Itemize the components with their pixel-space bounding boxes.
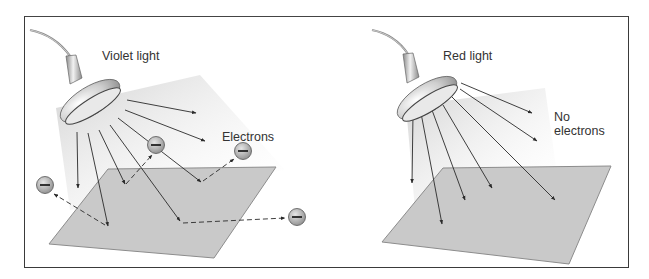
no-electrons-label: No electrons — [554, 110, 614, 138]
violet-panel — [30, 30, 306, 258]
electron — [235, 143, 252, 160]
electron — [289, 209, 306, 226]
electron — [37, 177, 54, 194]
red-panel — [372, 30, 611, 264]
red-light-label: Red light — [443, 49, 492, 63]
electron — [148, 137, 165, 154]
electrons-label: Electrons — [222, 130, 274, 144]
violet-light-label: Violet light — [102, 49, 159, 63]
photoelectric-diagram — [0, 0, 649, 279]
